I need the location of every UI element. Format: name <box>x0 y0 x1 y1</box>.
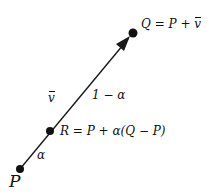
label-p: P <box>9 173 20 190</box>
arrowhead-icon <box>116 36 130 51</box>
point-q-dot <box>129 29 138 38</box>
diagram-canvas: Q = P + v v 1 − α R = P + α(Q − P) α P <box>0 0 209 196</box>
label-vector-v: v <box>48 92 55 104</box>
label-r-equation: R = P + α(Q − P) <box>60 125 166 137</box>
point-r-dot <box>46 127 54 135</box>
q-equation-text: Q = P + <box>141 17 194 31</box>
label-one-minus-alpha: 1 − α <box>92 89 125 101</box>
label-q-equation: Q = P + v <box>141 18 201 30</box>
label-alpha: α <box>37 149 45 161</box>
q-equation-vector: v <box>194 18 201 30</box>
